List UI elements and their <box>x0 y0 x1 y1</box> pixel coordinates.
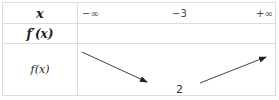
variation-arrows <box>0 0 279 100</box>
decreasing-arrow-icon <box>82 52 147 82</box>
increasing-arrow-icon <box>200 57 266 83</box>
